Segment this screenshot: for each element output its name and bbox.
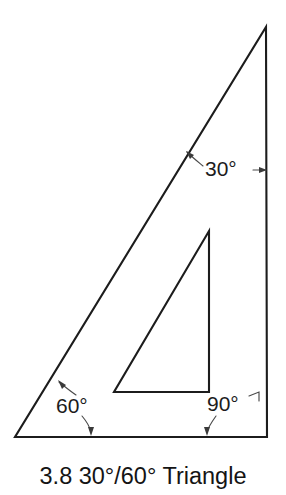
angle-label-90: 90°: [207, 392, 239, 415]
triangle-drawing: 30° 60° 90° 3.8 30°/60° Triangle: [0, 0, 286, 495]
arrowhead-60-hypotenuse: [58, 380, 66, 389]
figure-caption: 3.8 30°/60° Triangle: [40, 463, 247, 489]
angle-label-60: 60°: [56, 394, 88, 417]
arrowhead-90-baseline: [204, 427, 210, 436]
leader-line-90-to-vertical-edge: [249, 392, 259, 401]
outer-triangle-outline: [15, 27, 267, 437]
inner-triangle-cutout: [114, 231, 209, 392]
angle-label-30: 30°: [205, 157, 237, 180]
figure-container: 30° 60° 90° 3.8 30°/60° Triangle: [0, 0, 286, 495]
arrowhead-60-baseline: [88, 427, 94, 436]
